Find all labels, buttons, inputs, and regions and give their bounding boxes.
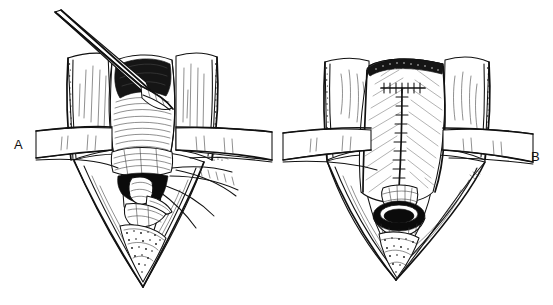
panel-a (0, 0, 277, 305)
panel-label-a: A (14, 137, 23, 152)
panel-label-b: B (531, 149, 540, 164)
panel-b (277, 0, 553, 305)
figure-container: A B (0, 0, 553, 305)
